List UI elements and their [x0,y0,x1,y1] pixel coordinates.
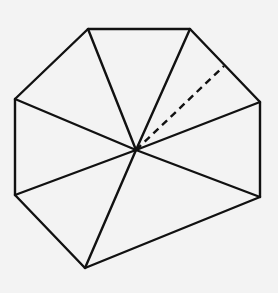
dashed-line [136,66,224,150]
dashed-segment [136,66,224,150]
polygon-diagram [0,0,278,293]
spoke-O-D [136,150,260,197]
diagram-canvas [0,0,278,293]
spoke-O-F [15,150,136,195]
